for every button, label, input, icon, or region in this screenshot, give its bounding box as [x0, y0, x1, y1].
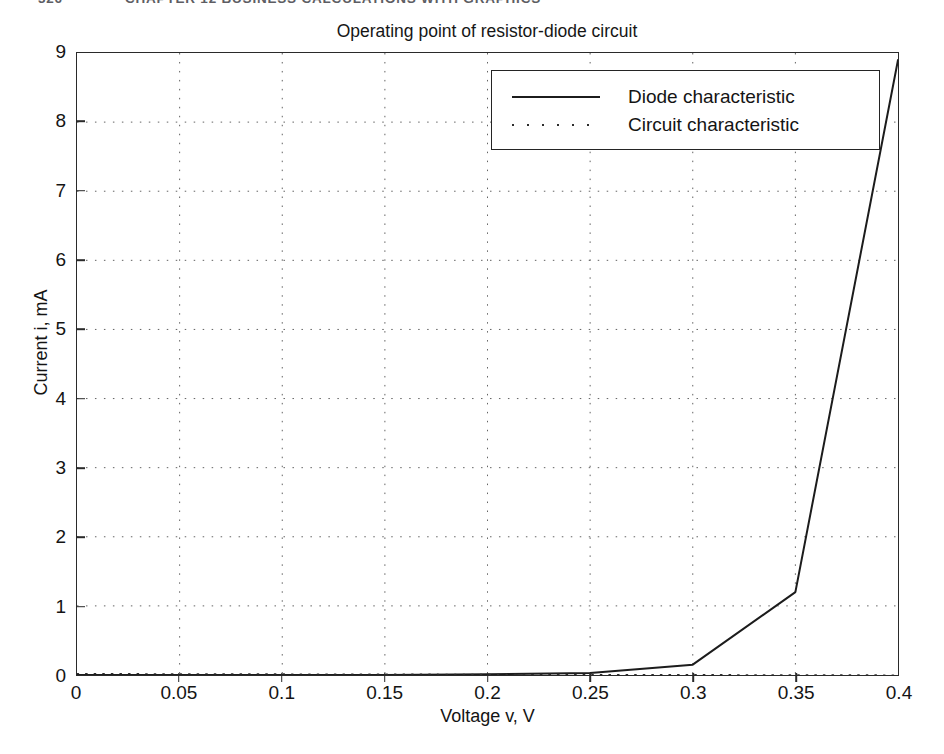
y-tick-mark	[76, 190, 85, 192]
y-tick-label: 1	[26, 596, 66, 618]
y-tick-mark	[76, 467, 85, 469]
plot-frame: Diode characteristic Circuit characteris…	[76, 52, 899, 676]
chart-figure: Operating point of resistor-diode circui…	[0, 0, 944, 754]
y-tick-mark	[76, 398, 85, 400]
legend-line-sample-dotted	[510, 118, 602, 132]
y-tick-label: 2	[26, 526, 66, 548]
y-axis-label: Current i, mA	[31, 258, 52, 428]
x-tick-label: 0.3	[648, 682, 738, 704]
x-tick-mark	[178, 673, 180, 682]
y-tick-mark	[76, 329, 85, 331]
y-tick-label: 3	[26, 457, 66, 479]
y-tick-label: 8	[26, 110, 66, 132]
y-tick-mark	[76, 121, 85, 123]
y-tick-label: 9	[26, 41, 66, 63]
x-tick-mark	[384, 673, 386, 682]
x-tick-label: 0	[31, 682, 121, 704]
y-tick-mark	[76, 606, 85, 608]
y-tick-mark	[76, 259, 85, 261]
x-tick-label: 0.05	[134, 682, 224, 704]
chart-legend: Diode characteristic Circuit characteris…	[491, 70, 880, 150]
x-tick-label: 0.15	[340, 682, 430, 704]
x-tick-mark	[487, 673, 489, 682]
legend-line-sample-solid	[510, 90, 602, 104]
y-tick-label: 7	[26, 180, 66, 202]
legend-entry-diode: Diode characteristic	[492, 83, 879, 111]
legend-label-circuit: Circuit characteristic	[628, 114, 799, 136]
x-tick-label: 0.2	[443, 682, 533, 704]
x-tick-label: 0.4	[854, 682, 944, 704]
x-tick-mark	[281, 673, 283, 682]
x-tick-mark	[692, 673, 694, 682]
x-tick-mark	[590, 673, 592, 682]
x-tick-label: 0.1	[237, 682, 327, 704]
chart-title: Operating point of resistor-diode circui…	[75, 21, 899, 42]
x-tick-label: 0.25	[545, 682, 635, 704]
legend-entry-circuit: Circuit characteristic	[492, 111, 879, 139]
legend-label-diode: Diode characteristic	[628, 86, 795, 108]
x-axis-label: Voltage v, V	[76, 706, 899, 727]
x-tick-mark	[795, 673, 797, 682]
x-tick-label: 0.35	[751, 682, 841, 704]
y-tick-mark	[76, 537, 85, 539]
